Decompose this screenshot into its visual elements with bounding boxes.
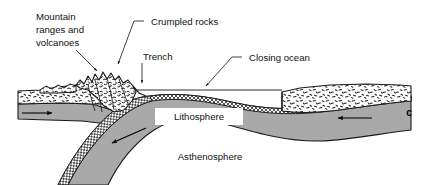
mountain-label-leader bbox=[76, 50, 97, 71]
crumpled-rocks-leader bbox=[118, 21, 144, 64]
mountain-ranges-and-volcanoes-label: Mountain ranges and volcanoes bbox=[36, 11, 84, 48]
panel-letter: c bbox=[406, 107, 412, 118]
mountain-label-line-2: ranges and bbox=[36, 24, 84, 35]
lithosphere-callout: Lithosphere bbox=[155, 108, 243, 125]
tectonics-figure: Lithosphere Asthenosphere Mountain range… bbox=[0, 0, 429, 185]
mountain-label-line-3: volcanoes bbox=[36, 37, 79, 48]
closing-ocean-leader bbox=[206, 57, 242, 86]
closing-ocean-label: Closing ocean bbox=[249, 52, 310, 63]
trench-label: Trench bbox=[143, 51, 173, 62]
mountain-label-line-1: Mountain bbox=[36, 11, 75, 22]
asthenosphere-label: Asthenosphere bbox=[178, 151, 243, 162]
lithosphere-label: Lithosphere bbox=[174, 111, 224, 122]
crumpled-rocks-label: Crumpled rocks bbox=[151, 16, 218, 27]
cross-section-diagram: Lithosphere Asthenosphere Mountain range… bbox=[0, 0, 429, 185]
